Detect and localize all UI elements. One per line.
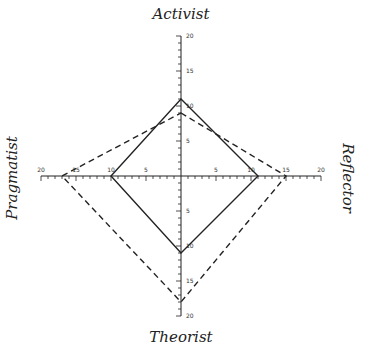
axes: 5555101010101515151520202020	[37, 32, 325, 319]
axis-label-activist: Activist	[150, 5, 210, 23]
series-dashed	[62, 113, 286, 302]
radar-chart: 5555101010101515151520202020 Activist Th…	[0, 0, 368, 350]
axis-label-theorist: Theorist	[149, 328, 213, 346]
tick-label: 5	[186, 137, 190, 144]
tick-label: 15	[186, 67, 194, 74]
tick-label: 5	[186, 207, 190, 214]
series	[62, 99, 286, 302]
tick-label: 5	[144, 166, 148, 173]
axis-label-reflector: Reflector	[339, 142, 357, 214]
tick-label: 15	[186, 277, 194, 284]
tick-label: 20	[37, 166, 45, 173]
tick-label: 10	[186, 242, 194, 249]
tick-label: 15	[282, 166, 290, 173]
tick-label: 20	[317, 166, 325, 173]
tick-label: 20	[186, 312, 194, 319]
tick-label: 20	[186, 32, 194, 39]
axis-label-pragmatist: Pragmatist	[3, 135, 21, 220]
tick-label: 5	[214, 166, 218, 173]
chart-canvas: 5555101010101515151520202020 Activist Th…	[0, 0, 368, 350]
